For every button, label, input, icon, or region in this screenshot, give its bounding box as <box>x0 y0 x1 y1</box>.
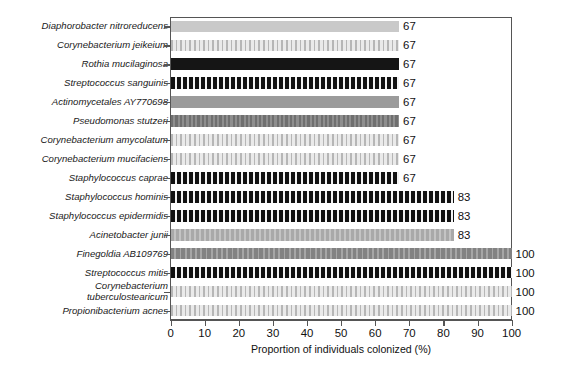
bar-value-label: 100 <box>512 301 535 320</box>
y-axis-tick <box>164 292 170 293</box>
bar <box>171 115 399 127</box>
y-axis-tick <box>164 178 170 179</box>
bar-row: Streptococcus sanguinis67 <box>0 74 583 93</box>
bar <box>171 267 512 279</box>
bar-category-label: Staphylococcus caprae <box>8 169 168 188</box>
bar-row: Staphylococcus caprae67 <box>0 169 583 188</box>
bar <box>171 248 512 260</box>
y-axis-tick <box>164 83 170 84</box>
x-axis-tick <box>409 320 410 326</box>
y-axis-tick <box>164 311 170 312</box>
bar-row: Corynebacterium mucifaciens67 <box>0 150 583 169</box>
bar-row: Propionibacterium acnes100 <box>0 301 583 320</box>
bar-value-label: 67 <box>399 93 416 112</box>
x-axis-tick <box>443 320 444 326</box>
bar-category-label: Rothia mucilaginosa <box>8 55 168 74</box>
x-axis-tick <box>205 320 206 326</box>
bar-category-label: Finegoldia AB109769 <box>8 244 168 263</box>
bar-category-label: Corynebacterium mucifaciens <box>8 150 168 169</box>
y-axis-tick <box>164 121 170 122</box>
y-axis-tick <box>164 159 170 160</box>
bar-value-label: 67 <box>399 150 416 169</box>
bar-category-label: Corynebacterium amycolatum <box>8 131 168 150</box>
bar <box>171 210 454 222</box>
bar-row: Diaphorobacter nitroreducens67 <box>0 17 583 36</box>
bar <box>171 191 454 203</box>
bar <box>171 96 399 108</box>
bar <box>171 286 512 298</box>
bar <box>171 172 399 184</box>
y-axis-tick <box>164 273 170 274</box>
bar-row: Corynebacterium tuberculostearicum100 <box>0 282 583 301</box>
bar-rows-container: Diaphorobacter nitroreducens67Corynebact… <box>0 17 583 320</box>
bar-chart: Diaphorobacter nitroreducens67Corynebact… <box>0 0 583 365</box>
bar-value-label: 100 <box>512 282 535 301</box>
y-axis-tick <box>164 102 170 103</box>
bar-category-label: Acinetobacter junii <box>8 225 168 244</box>
bar <box>171 305 512 317</box>
bar-value-label: 67 <box>399 74 416 93</box>
bar-category-label: Staphylococcus epidermidis <box>8 206 168 225</box>
y-axis-tick <box>164 64 170 65</box>
y-axis-tick <box>164 26 170 27</box>
y-axis-tick <box>164 235 170 236</box>
bar <box>171 153 399 165</box>
bar-row: Rothia mucilaginosa67 <box>0 55 583 74</box>
y-axis-tick <box>164 254 170 255</box>
bar-row: Staphylococcus epidermidis83 <box>0 206 583 225</box>
bar-row: Staphylococcus hominis83 <box>0 187 583 206</box>
bar-value-label: 83 <box>454 187 471 206</box>
x-axis-tick <box>307 320 308 326</box>
bar-row: Corynebacterium jeikeium67 <box>0 36 583 55</box>
bar-row: Pseudomonas stutzeri67 <box>0 112 583 131</box>
bar <box>171 229 454 241</box>
x-axis-tick <box>478 320 479 326</box>
bar-value-label: 67 <box>399 169 416 188</box>
bar <box>171 58 399 70</box>
bar <box>171 40 399 52</box>
x-axis-tick <box>512 320 513 326</box>
bar-category-label: Pseudomonas stutzeri <box>8 112 168 131</box>
x-axis-tick <box>341 320 342 326</box>
x-axis-tick-label: 100 <box>492 327 532 339</box>
y-axis-tick <box>164 140 170 141</box>
bar-category-label: Actinomycetales AY770698 <box>8 93 168 112</box>
bar-row: Finegoldia AB109769100 <box>0 244 583 263</box>
y-axis-tick <box>164 197 170 198</box>
x-axis-tick <box>375 320 376 326</box>
bar-value-label: 67 <box>399 131 416 150</box>
bar-row: Streptococcus mitis100 <box>0 263 583 282</box>
bar-value-label: 67 <box>399 17 416 36</box>
bar-category-label: Diaphorobacter nitroreducens <box>8 17 168 36</box>
bar-row: Corynebacterium amycolatum67 <box>0 131 583 150</box>
bar-value-label: 100 <box>512 263 535 282</box>
bar-category-label: Propionibacterium acnes <box>8 301 168 320</box>
bar-row: Acinetobacter junii83 <box>0 225 583 244</box>
bar-row: Actinomycetales AY77069867 <box>0 93 583 112</box>
bar-category-label: Streptococcus sanguinis <box>8 74 168 93</box>
bar <box>171 134 399 146</box>
bar-value-label: 83 <box>454 225 471 244</box>
bar-value-label: 100 <box>512 244 535 263</box>
bar-category-label: Staphylococcus hominis <box>8 187 168 206</box>
y-axis-tick <box>164 216 170 217</box>
bar <box>171 21 399 33</box>
bar-value-label: 83 <box>454 206 471 225</box>
x-axis-tick <box>171 320 172 326</box>
x-axis-tick <box>239 320 240 326</box>
y-axis-tick <box>164 45 170 46</box>
bar-category-label: Corynebacterium jeikeium <box>8 36 168 55</box>
bar-value-label: 67 <box>399 55 416 74</box>
bar-value-label: 67 <box>399 36 416 55</box>
bar-category-label: Corynebacterium tuberculostearicum <box>8 282 168 301</box>
bar <box>171 77 399 89</box>
x-axis-tick <box>273 320 274 326</box>
bar-value-label: 67 <box>399 112 416 131</box>
x-axis-title: Proportion of individuals colonized (%) <box>170 343 512 355</box>
